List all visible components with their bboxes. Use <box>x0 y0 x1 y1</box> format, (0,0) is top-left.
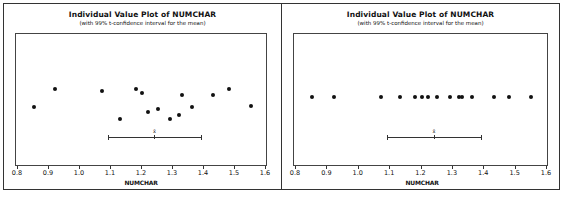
data-point <box>507 95 511 99</box>
x-tick-label: 1.3 <box>167 169 177 177</box>
plot-area: x̄ <box>15 33 267 166</box>
data-point <box>190 105 194 109</box>
data-point <box>53 87 57 91</box>
mean-label: x̄ <box>153 128 156 134</box>
chart-title: Individual Value Plot of NUMCHAR <box>282 10 559 19</box>
data-point <box>134 87 138 91</box>
data-point <box>32 105 36 109</box>
x-tick-label: 1.6 <box>541 169 551 177</box>
x-tick-label: 1.5 <box>229 169 239 177</box>
data-point <box>180 93 184 97</box>
data-point <box>249 104 253 108</box>
data-point <box>492 95 496 99</box>
x-axis-label: NUMCHAR <box>405 179 438 186</box>
data-point <box>420 95 424 99</box>
data-point <box>379 95 383 99</box>
confidence-interval-cap <box>481 135 482 140</box>
x-tick-label: 0.9 <box>43 169 53 177</box>
plot-area: x̄ <box>293 33 548 166</box>
data-point <box>211 93 215 97</box>
data-point <box>398 95 402 99</box>
x-tick-label: 1.2 <box>136 169 146 177</box>
data-point <box>310 95 314 99</box>
data-point <box>100 89 104 93</box>
x-tick-label: 1.0 <box>353 169 363 177</box>
x-tick-label: 1.5 <box>509 169 519 177</box>
x-tick-label: 1.2 <box>415 169 425 177</box>
chart-subtitle: (with 99% t-confidence interval for the … <box>4 20 281 26</box>
confidence-interval-cap <box>201 135 202 140</box>
data-point <box>118 117 122 121</box>
x-tick-label: 0.8 <box>290 169 300 177</box>
x-tick-label: 0.8 <box>12 169 22 177</box>
data-point <box>177 113 181 117</box>
data-point <box>435 95 439 99</box>
data-point <box>227 87 231 91</box>
x-tick-label: 0.9 <box>321 169 331 177</box>
x-axis-label: NUMCHAR <box>124 179 157 186</box>
data-point <box>470 95 474 99</box>
x-tick-label: 1.4 <box>198 169 208 177</box>
x-tick-label: 1.3 <box>447 169 457 177</box>
x-tick-label: 1.1 <box>105 169 115 177</box>
x-tick-label: 1.1 <box>384 169 394 177</box>
right-chart-panel: Individual Value Plot of NUMCHAR (with 9… <box>281 3 560 190</box>
data-point <box>168 117 172 121</box>
mean-label: x̄ <box>433 128 436 134</box>
data-point <box>332 95 336 99</box>
data-point <box>448 95 452 99</box>
data-point <box>156 107 160 111</box>
confidence-interval-cap <box>108 135 109 140</box>
data-point <box>460 95 464 99</box>
x-tick-label: 1.4 <box>478 169 488 177</box>
data-point <box>529 95 533 99</box>
data-point <box>140 91 144 95</box>
data-point <box>426 95 430 99</box>
chart-title: Individual Value Plot of NUMCHAR <box>4 10 281 19</box>
left-chart-panel: Individual Value Plot of NUMCHAR (with 9… <box>3 3 282 190</box>
x-tick-label: 1.6 <box>260 169 270 177</box>
confidence-interval-cap <box>387 135 388 140</box>
data-point <box>146 110 150 114</box>
data-point <box>413 95 417 99</box>
mean-marker <box>154 135 155 139</box>
mean-marker <box>434 135 435 139</box>
chart-subtitle: (with 99% t-confidence interval for the … <box>282 20 559 26</box>
x-tick-label: 1.0 <box>74 169 84 177</box>
